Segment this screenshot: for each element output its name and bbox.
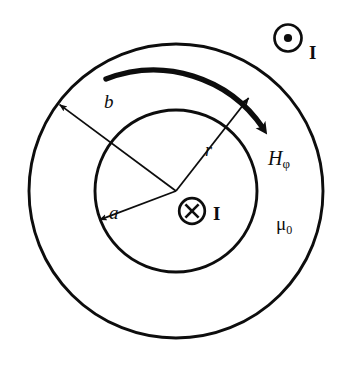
coaxial-cable-diagram: a b r Hφ μ0 I I	[0, 0, 339, 367]
label-current-inner-i: I	[213, 204, 220, 223]
radius-line-b	[60, 105, 176, 191]
label-h-phi: Hφ	[268, 148, 290, 170]
label-mu-base: μ	[276, 213, 286, 234]
label-outer-radius-b: b	[104, 92, 114, 111]
label-inner-radius-a: a	[109, 203, 119, 222]
field-direction-arc	[106, 70, 263, 128]
label-field-radius-r: r	[205, 141, 212, 159]
label-mu-zero: μ0	[276, 214, 292, 236]
label-h-phi-base: H	[268, 147, 282, 169]
circle-dot-icon	[275, 25, 302, 52]
circle-cross-icon	[179, 198, 205, 224]
label-h-phi-subscript: φ	[282, 156, 290, 171]
label-current-outer-i: I	[309, 43, 316, 62]
diagram-canvas	[0, 0, 339, 367]
label-mu-subscript: 0	[286, 223, 292, 237]
